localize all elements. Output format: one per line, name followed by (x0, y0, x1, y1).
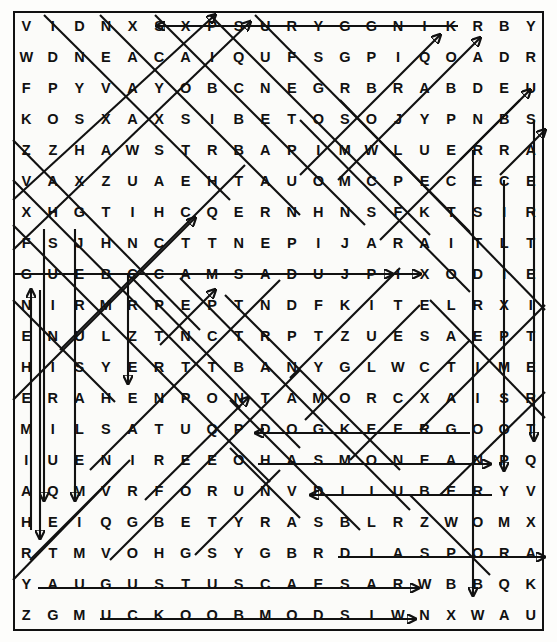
grid-cell[interactable]: C (411, 352, 438, 383)
grid-cell[interactable]: I (66, 507, 93, 538)
grid-cell[interactable]: S (146, 11, 173, 42)
grid-cell[interactable]: W (358, 135, 385, 166)
grid-cell[interactable]: V (93, 73, 120, 104)
grid-cell[interactable]: N (225, 383, 252, 414)
grid-cell[interactable]: N (13, 290, 40, 321)
grid-cell[interactable]: Y (66, 73, 93, 104)
grid-cell[interactable]: T (438, 197, 465, 228)
grid-cell[interactable]: P (358, 42, 385, 73)
grid-cell[interactable]: R (199, 476, 226, 507)
grid-cell[interactable]: D (464, 259, 491, 290)
grid-cell[interactable]: R (146, 352, 173, 383)
grid-cell[interactable]: S (411, 538, 438, 569)
grid-cell[interactable]: Y (93, 352, 120, 383)
grid-cell[interactable]: Y (225, 538, 252, 569)
grid-cell[interactable]: T (199, 352, 226, 383)
grid-cell[interactable]: P (278, 321, 305, 352)
grid-cell[interactable]: W (119, 135, 146, 166)
grid-cell[interactable]: I (438, 228, 465, 259)
grid-cell[interactable]: L (385, 135, 412, 166)
grid-cell[interactable]: C (252, 569, 279, 600)
grid-cell[interactable]: Y (146, 73, 173, 104)
grid-cell[interactable]: E (119, 352, 146, 383)
grid-cell[interactable]: R (146, 445, 173, 476)
grid-cell[interactable]: P (438, 104, 465, 135)
grid-cell[interactable]: S (332, 104, 359, 135)
grid-cell[interactable]: A (93, 135, 120, 166)
grid-cell[interactable]: A (252, 259, 279, 290)
grid-cell[interactable]: T (385, 290, 412, 321)
grid-cell[interactable]: M (13, 414, 40, 445)
grid-cell[interactable]: A (278, 445, 305, 476)
grid-cell[interactable]: V (13, 166, 40, 197)
grid-cell[interactable]: R (491, 135, 518, 166)
grid-cell[interactable]: I (491, 197, 518, 228)
grid-cell[interactable]: N (385, 11, 412, 42)
grid-cell[interactable]: R (517, 42, 544, 73)
grid-cell[interactable]: D (464, 73, 491, 104)
grid-cell[interactable]: O (438, 42, 465, 73)
grid-cell[interactable]: D (278, 290, 305, 321)
grid-cell[interactable]: D (305, 600, 332, 631)
grid-cell[interactable]: U (278, 166, 305, 197)
grid-cell[interactable]: B (491, 11, 518, 42)
grid-cell[interactable]: A (172, 42, 199, 73)
grid-cell[interactable]: U (225, 476, 252, 507)
grid-cell[interactable]: G (358, 11, 385, 42)
grid-cell[interactable]: J (332, 259, 359, 290)
grid-cell[interactable]: T (172, 352, 199, 383)
grid-cell[interactable]: R (13, 538, 40, 569)
grid-cell[interactable]: R (385, 228, 412, 259)
grid-cell[interactable]: K (13, 104, 40, 135)
grid-cell[interactable]: S (199, 538, 226, 569)
grid-cell[interactable]: U (172, 414, 199, 445)
grid-cell[interactable]: B (199, 73, 226, 104)
grid-cell[interactable]: I (358, 538, 385, 569)
grid-cell[interactable]: N (252, 73, 279, 104)
grid-cell[interactable]: T (278, 104, 305, 135)
grid-cell[interactable]: C (146, 259, 173, 290)
grid-cell[interactable]: L (358, 507, 385, 538)
grid-cell[interactable]: Z (332, 321, 359, 352)
grid-cell[interactable]: S (225, 11, 252, 42)
grid-cell[interactable]: E (517, 166, 544, 197)
grid-cell[interactable]: X (146, 104, 173, 135)
grid-cell[interactable]: S (66, 104, 93, 135)
grid-cell[interactable]: H (93, 228, 120, 259)
grid-cell[interactable]: M (199, 259, 226, 290)
grid-cell[interactable]: G (66, 197, 93, 228)
grid-cell[interactable]: C (358, 166, 385, 197)
grid-cell[interactable]: I (119, 197, 146, 228)
grid-cell[interactable]: U (385, 476, 412, 507)
grid-cell[interactable]: X (13, 197, 40, 228)
grid-cell[interactable]: S (146, 569, 173, 600)
grid-cell[interactable]: Z (13, 600, 40, 631)
grid-cell[interactable]: E (172, 290, 199, 321)
grid-cell[interactable]: G (172, 538, 199, 569)
grid-cell[interactable]: R (411, 414, 438, 445)
grid-cell[interactable]: W (385, 600, 412, 631)
grid-cell[interactable]: R (517, 197, 544, 228)
grid-cell[interactable]: F (13, 73, 40, 104)
grid-cell[interactable]: I (464, 352, 491, 383)
grid-cell[interactable]: C (146, 42, 173, 73)
grid-cell[interactable]: G (93, 569, 120, 600)
grid-cell[interactable]: P (225, 414, 252, 445)
grid-cell[interactable]: P (385, 166, 412, 197)
grid-cell[interactable]: R (385, 507, 412, 538)
grid-cell[interactable]: K (146, 600, 173, 631)
grid-cell[interactable]: G (305, 73, 332, 104)
grid-cell[interactable]: H (93, 383, 120, 414)
grid-cell[interactable]: E (66, 445, 93, 476)
grid-cell[interactable]: H (146, 197, 173, 228)
grid-cell[interactable]: E (93, 42, 120, 73)
grid-cell[interactable]: Y (305, 11, 332, 42)
grid-cell[interactable]: T (199, 228, 226, 259)
grid-cell[interactable]: G (13, 259, 40, 290)
grid-cell[interactable]: E (199, 445, 226, 476)
grid-cell[interactable]: A (358, 228, 385, 259)
grid-cell[interactable]: D (491, 42, 518, 73)
grid-cell[interactable]: S (305, 507, 332, 538)
grid-cell[interactable]: T (438, 352, 465, 383)
grid-cell[interactable]: E (278, 73, 305, 104)
